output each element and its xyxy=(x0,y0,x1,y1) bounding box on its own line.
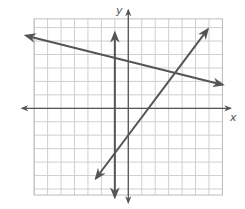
decreasing-line xyxy=(26,36,222,85)
coordinate-plane: x y xyxy=(0,0,245,209)
y-axis-label: y xyxy=(115,4,123,17)
increasing-line xyxy=(96,29,208,178)
x-axis-label: x xyxy=(229,111,237,124)
